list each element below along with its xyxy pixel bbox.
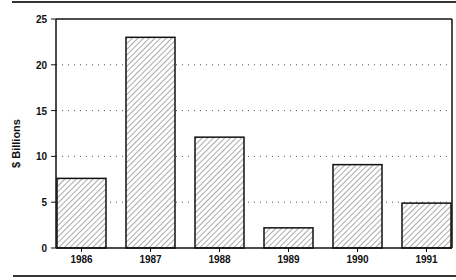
- axes: [56, 19, 452, 248]
- y-axis-ticks: 0510152025: [36, 14, 56, 254]
- y-tick-label: 25: [36, 14, 48, 25]
- bars: [57, 37, 451, 248]
- y-tick-label: 0: [41, 243, 47, 254]
- x-tick-label: 1987: [139, 254, 162, 265]
- x-tick-label: 1988: [208, 254, 231, 265]
- y-tick-label: 5: [41, 197, 47, 208]
- bar-1986: [57, 178, 106, 248]
- bar-1989: [264, 228, 313, 248]
- x-tick-label: 1991: [415, 254, 438, 265]
- bar-chart: 0510152025 198619871988198919901991 $ Bi…: [0, 0, 456, 280]
- bar-1988: [195, 137, 244, 248]
- y-axis-title: $ Billions: [10, 119, 22, 168]
- bar-1987: [126, 37, 175, 248]
- bar-1990: [333, 165, 382, 248]
- y-tick-label: 10: [36, 151, 48, 162]
- x-tick-label: 1986: [70, 254, 93, 265]
- y-tick-label: 20: [36, 60, 48, 71]
- x-axis-ticks: 198619871988198919901991: [70, 248, 438, 265]
- y-tick-label: 15: [36, 106, 48, 117]
- bar-1991: [402, 203, 451, 248]
- x-tick-label: 1990: [346, 254, 369, 265]
- gridlines: [56, 65, 452, 202]
- x-tick-label: 1989: [277, 254, 300, 265]
